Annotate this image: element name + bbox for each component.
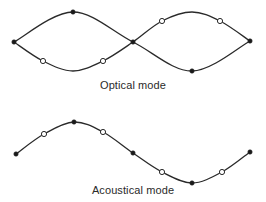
open-atom-icon bbox=[41, 131, 46, 136]
open-atom-icon bbox=[159, 18, 164, 23]
wave-drawing bbox=[0, 0, 266, 202]
open-atom-icon bbox=[100, 129, 105, 134]
filled-atom-icon bbox=[71, 10, 75, 14]
open-atom-icon bbox=[159, 169, 164, 174]
filled-atom-icon bbox=[131, 40, 135, 44]
optical-mode-wave bbox=[12, 10, 252, 73]
open-atom-icon bbox=[40, 58, 45, 63]
open-atom-icon bbox=[219, 169, 224, 174]
optical-mode-label: Optical mode bbox=[0, 79, 266, 91]
filled-atom-icon bbox=[248, 39, 252, 43]
filled-atom-icon bbox=[12, 40, 16, 44]
acoustical-mode-label: Acoustical mode bbox=[0, 184, 266, 196]
filled-atom-icon bbox=[72, 120, 76, 124]
open-atom-icon bbox=[100, 58, 105, 63]
filled-atom-icon bbox=[14, 152, 18, 156]
open-atom-icon bbox=[217, 18, 222, 23]
acoustical-mode-wave bbox=[14, 120, 252, 185]
filled-atom-icon bbox=[248, 150, 252, 154]
lattice-vibration-diagram: Optical mode Acoustical mode bbox=[0, 0, 266, 202]
filled-atom-icon bbox=[190, 69, 194, 73]
filled-atom-icon bbox=[131, 151, 135, 155]
